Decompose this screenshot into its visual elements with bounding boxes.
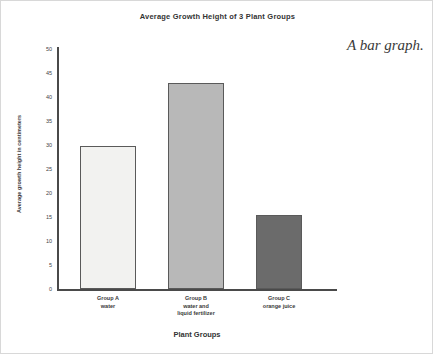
- bar-group-c: [256, 215, 302, 289]
- chart-page: Average Growth Height of 3 Plant Groups …: [0, 0, 433, 354]
- category-sublabel: water: [66, 303, 150, 311]
- category-name: Group A: [66, 295, 150, 303]
- category-name: Group B: [154, 295, 238, 303]
- y-axis-title: Average growth height in centimeters: [16, 94, 22, 234]
- category-sublabel: water and: [154, 303, 238, 311]
- bar-group-b: [168, 83, 224, 289]
- y-axis-tick-label: 25: [31, 166, 52, 172]
- y-axis-line: [57, 47, 59, 290]
- y-axis-tick-label: 35: [31, 118, 52, 124]
- bar-group-a: [80, 146, 136, 289]
- y-axis-tick-label: 10: [31, 238, 52, 244]
- x-axis-label-group-b: Group Bwater andliquid fertilizer: [154, 295, 238, 318]
- x-axis-title: Plant Groups: [57, 330, 337, 339]
- x-axis-line: [57, 289, 337, 291]
- x-axis-label-group-a: Group Awater: [66, 295, 150, 310]
- y-axis-tick-label: 30: [31, 142, 52, 148]
- y-axis-tick-label: 20: [31, 190, 52, 196]
- y-axis-tick-label: 5: [31, 262, 52, 268]
- y-axis-tick-label: 50: [31, 46, 52, 52]
- category-sublabel: liquid fertilizer: [154, 310, 238, 318]
- y-axis-tick-label: 45: [31, 70, 52, 76]
- plot-area: 05101520253035404550 Average growth heig…: [1, 1, 433, 354]
- category-name: Group C: [242, 295, 316, 303]
- category-sublabel: orange juice: [242, 303, 316, 311]
- x-axis-label-group-c: Group Corange juice: [242, 295, 316, 310]
- y-axis-tick-label: 0: [31, 286, 52, 292]
- y-axis-tick-label: 40: [31, 94, 52, 100]
- y-axis-tick-label: 15: [31, 214, 52, 220]
